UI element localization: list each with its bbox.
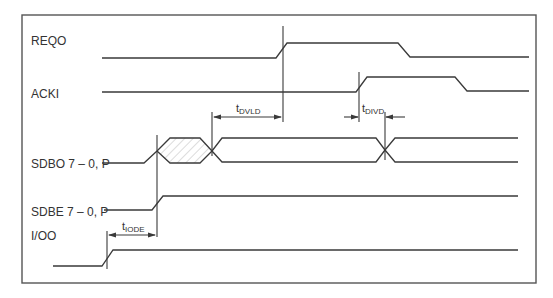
- arrow-left-icon: [213, 115, 221, 120]
- signal-label-sdbo: SDBO 7 – 0, P: [31, 157, 110, 171]
- timing-tdvld: tDVLD: [213, 102, 282, 120]
- arrow-left-icon: [385, 115, 393, 120]
- waveform-reqo: [102, 43, 529, 58]
- timing-diagram: REQO ACKI SDBO 7 – 0, P SDBE 7 – 0, P I/…: [0, 0, 553, 298]
- timing-tiode: tIODE: [108, 220, 156, 238]
- waveform-acki: [102, 77, 529, 92]
- tiode-label: tIODE: [122, 220, 145, 234]
- tdivd-label: tDIVD: [362, 102, 384, 116]
- signal-label-sdbe: SDBE 7 – 0, P: [31, 205, 108, 219]
- signal-label-ioo: I/OO: [31, 229, 56, 243]
- timing-tdivd: tDIVD: [344, 102, 405, 120]
- tdvld-label: tDVLD: [236, 102, 261, 116]
- arrow-left-icon: [108, 233, 116, 238]
- waveform-sdbo: [102, 138, 518, 163]
- arrow-right-icon: [351, 115, 359, 120]
- signal-label-acki: ACKI: [31, 87, 59, 101]
- diagram-frame: [22, 15, 536, 283]
- arrow-right-icon: [148, 233, 156, 238]
- signal-label-reqo: REQO: [31, 34, 66, 48]
- waveform-sdbe: [104, 196, 518, 210]
- waveform-ioo: [53, 250, 518, 266]
- arrow-right-icon: [274, 115, 282, 120]
